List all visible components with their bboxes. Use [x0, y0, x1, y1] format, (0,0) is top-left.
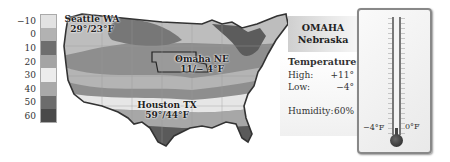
legend-label: 10 — [12, 43, 40, 53]
legend-swatch — [40, 28, 57, 42]
high-label: High: — [288, 70, 313, 80]
city-header: OMAHA Nebraska — [288, 16, 358, 52]
city-name: Seattle WA — [62, 14, 122, 24]
city-label-houston: Houston TX 59°/44°F — [132, 100, 202, 120]
us-temperature-map: Seattle WA 29°/23°F Omaha NE 11/− 4°F Ho… — [62, 10, 302, 150]
legend-swatch — [40, 68, 57, 82]
city-title: OMAHA — [288, 22, 358, 34]
temperature-heading: Temperature: — [288, 56, 360, 67]
thermometer-bulb-icon — [390, 134, 403, 147]
low-value: −4° — [336, 82, 354, 92]
legend-swatch — [40, 109, 57, 123]
humidity-label: Humidity: — [288, 106, 333, 116]
legend-label: 40 — [12, 84, 40, 94]
legend-swatch — [40, 96, 57, 110]
legend-swatch — [40, 82, 57, 96]
city-label-seattle: Seattle WA 29°/23°F — [62, 14, 122, 34]
legend-swatch — [40, 14, 57, 28]
thermometer-low-label: −4°F — [363, 123, 384, 132]
high-row: High: +11° — [288, 70, 354, 80]
humidity-value: 60% — [334, 106, 354, 116]
legend-label: −10 — [12, 16, 40, 26]
state-title: Nebraska — [288, 34, 358, 46]
city-name: Houston TX — [132, 100, 202, 110]
city-temps: 29°/23°F — [62, 24, 122, 34]
legend-swatch — [40, 55, 57, 69]
thermometer-scale-label: 0°F — [405, 122, 420, 131]
city-label-omaha: Omaha NE 11/− 4°F — [172, 54, 232, 74]
humidity-row: Humidity: 60% — [288, 106, 354, 116]
legend-label: 50 — [12, 97, 40, 107]
legend-label: 20 — [12, 57, 40, 67]
legend-label: 60 — [12, 111, 40, 121]
city-temps: 11/− 4°F — [172, 64, 232, 74]
thermometer-tube — [392, 17, 401, 135]
thermometer-card: −4°F 0°F — [357, 8, 432, 154]
high-value: +11° — [331, 70, 355, 80]
weather-info-panel: Temperature: High: +11° Low: −4° Humidit… — [280, 54, 360, 136]
legend-label: 30 — [12, 70, 40, 80]
low-row: Low: −4° — [288, 82, 354, 92]
city-temps: 59°/44°F — [132, 110, 202, 120]
legend-swatch — [40, 41, 57, 55]
legend-label: 0 — [12, 29, 40, 39]
low-label: Low: — [288, 82, 310, 92]
city-name: Omaha NE — [172, 54, 232, 64]
